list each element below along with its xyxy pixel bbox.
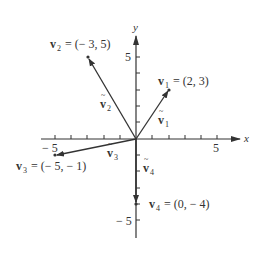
y-tick-neg5: − 5 <box>116 214 132 228</box>
svg-text:= (− 3, 5): = (− 3, 5) <box>65 37 111 51</box>
svg-text:v: v <box>16 159 22 173</box>
svg-text:= (2, 3): = (2, 3) <box>173 74 209 88</box>
x-tick-neg5: − 5 <box>42 141 58 155</box>
x-axis <box>41 135 240 139</box>
svg-text:v: v <box>149 197 155 211</box>
svg-text:3: 3 <box>114 153 118 162</box>
svg-text:4: 4 <box>156 204 160 213</box>
svg-text:~: ~ <box>159 107 164 116</box>
point-label-v1: v 1 = (2, 3) <box>158 74 209 90</box>
y-axis-label: y <box>132 21 138 33</box>
point-label-v2: v 2 = (− 3, 5) <box>50 37 111 53</box>
vector-v4 <box>134 139 137 206</box>
point-label-v3: v 3 = (− 5, − 1) <box>16 159 86 175</box>
svg-text:v: v <box>158 74 164 88</box>
x-axis-label: x <box>243 132 249 144</box>
point-label-v4: v 4 = (0, − 4) <box>149 197 210 213</box>
vector-v2 <box>86 55 136 139</box>
x-tick-5: 5 <box>213 141 219 155</box>
arrow-label-v1: v1 ~ <box>158 107 169 129</box>
svg-text:= (− 5, − 1): = (− 5, − 1) <box>31 159 86 173</box>
vector-v3 <box>53 139 136 157</box>
svg-text:~: ~ <box>108 140 113 149</box>
svg-text:4: 4 <box>150 168 154 177</box>
vector-v1 <box>136 88 171 139</box>
svg-text:2: 2 <box>107 104 111 113</box>
svg-text:1: 1 <box>165 81 169 90</box>
svg-text:~: ~ <box>144 155 149 164</box>
svg-text:1: 1 <box>165 120 169 129</box>
y-tick-5: 5 <box>125 50 131 64</box>
svg-text:2: 2 <box>57 44 61 53</box>
svg-text:v: v <box>50 37 56 51</box>
svg-text:3: 3 <box>23 166 27 175</box>
vector-diagram: x y − 5 5 5 − 5 v1 ~ v2 ~ v3 ~ v4 ~ v 1 … <box>0 0 265 254</box>
svg-text:~: ~ <box>101 91 106 100</box>
arrow-label-v4: v4 ~ <box>143 155 154 177</box>
svg-text:= (0, − 4): = (0, − 4) <box>164 197 210 211</box>
